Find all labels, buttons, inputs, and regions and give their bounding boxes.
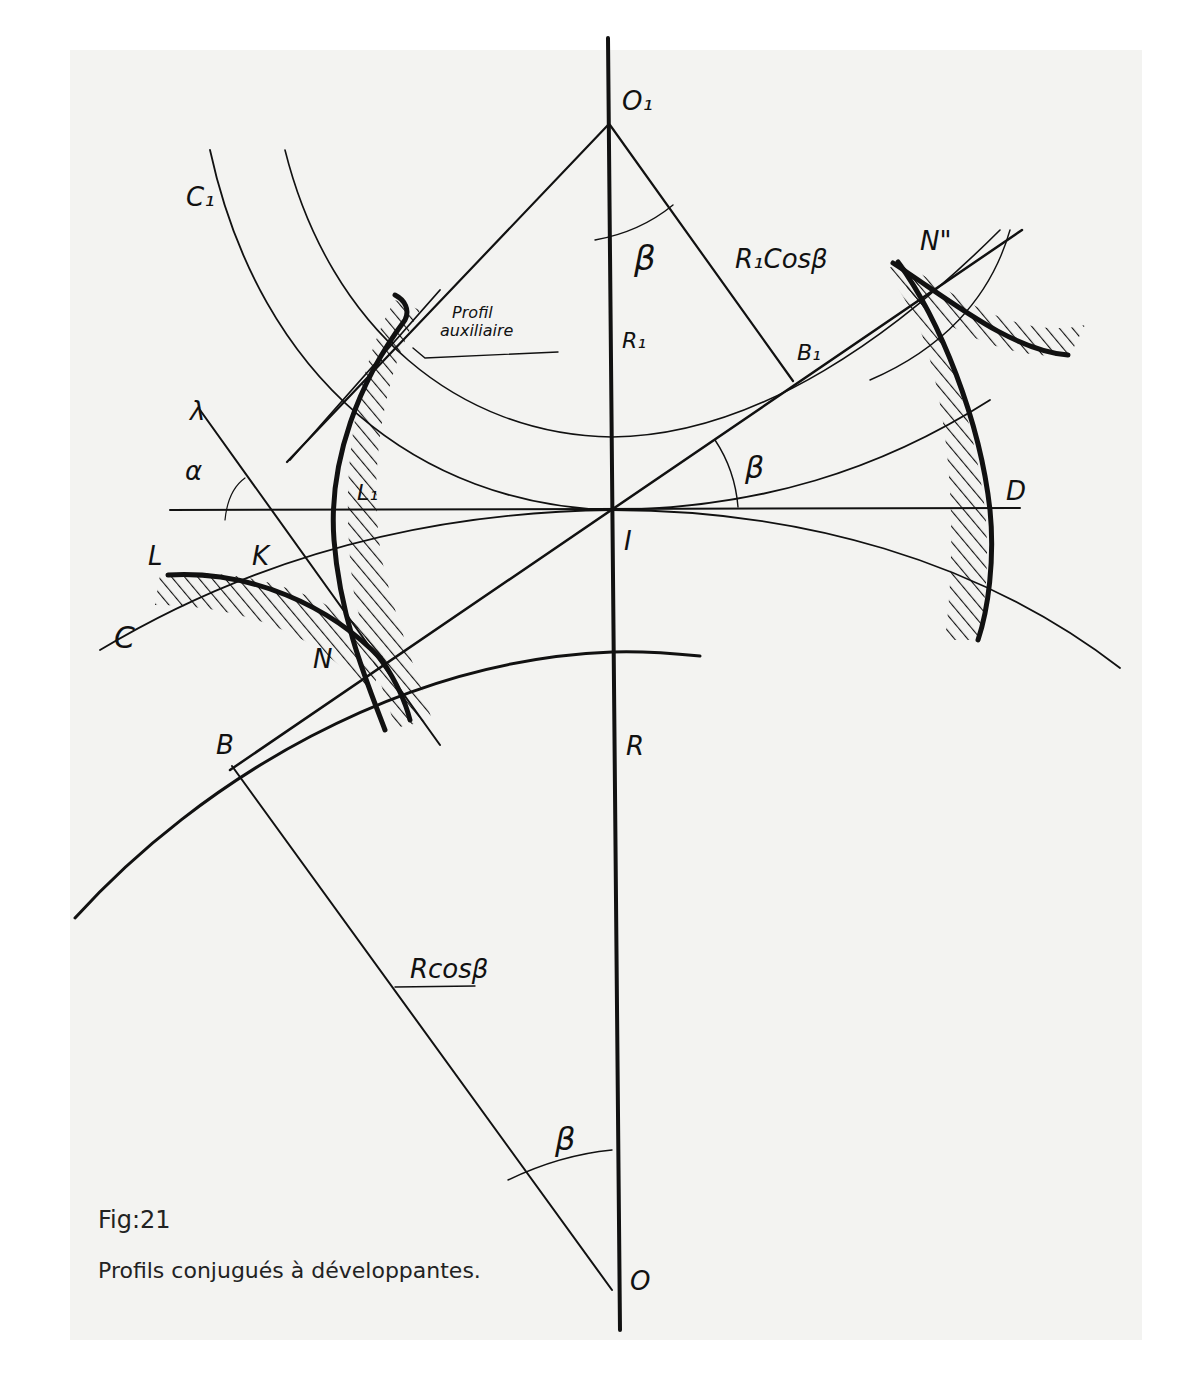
label-l1: L₁ <box>357 480 378 505</box>
label-c: C <box>114 620 135 655</box>
label-beta-top: β <box>633 238 656 278</box>
label-r1: R₁ <box>622 328 646 353</box>
center-axis <box>608 38 620 1330</box>
label-o: O <box>630 1266 650 1296</box>
gear-diagram: O₁ C₁ β R₁Cosβ N" Profil auxiliaire R₁ B… <box>0 0 1198 1400</box>
figure-caption: Profils conjugués à développantes. <box>98 1258 481 1283</box>
label-lambda: λ <box>188 396 205 426</box>
label-profil-aux-1: Profil <box>452 303 493 322</box>
label-rcosbeta: Rcosβ <box>410 954 488 984</box>
label-c1: C₁ <box>186 182 215 212</box>
base-circle-r1 <box>285 150 1000 437</box>
beta-arc-mid <box>715 440 738 507</box>
label-b: B <box>216 730 234 760</box>
b-to-o-line <box>232 766 612 1290</box>
label-beta-mid: β <box>744 450 764 485</box>
figure-number: Fig:21 <box>98 1206 171 1234</box>
label-beta-bottom: β <box>554 1120 575 1158</box>
label-r: R <box>626 731 644 761</box>
profil-aux-leader <box>413 348 558 358</box>
label-n: N <box>313 644 332 674</box>
label-r1cosbeta: R₁Cosβ <box>735 244 828 274</box>
label-o1: O₁ <box>622 86 653 116</box>
label-n-double-prime: N" <box>920 226 951 256</box>
label-l: L <box>148 541 163 571</box>
alpha-arc <box>225 478 245 520</box>
circle-c1 <box>210 150 990 510</box>
label-profil-aux-2: auxiliaire <box>440 321 514 340</box>
rcos-leader <box>395 986 475 987</box>
o1-left-ray <box>287 125 608 462</box>
label-d: D <box>1006 476 1026 506</box>
label-b1: B₁ <box>797 340 821 365</box>
beta-arc-top <box>595 205 673 240</box>
label-i: I <box>624 526 632 556</box>
label-k: K <box>252 541 271 571</box>
label-alpha: α <box>185 456 202 486</box>
